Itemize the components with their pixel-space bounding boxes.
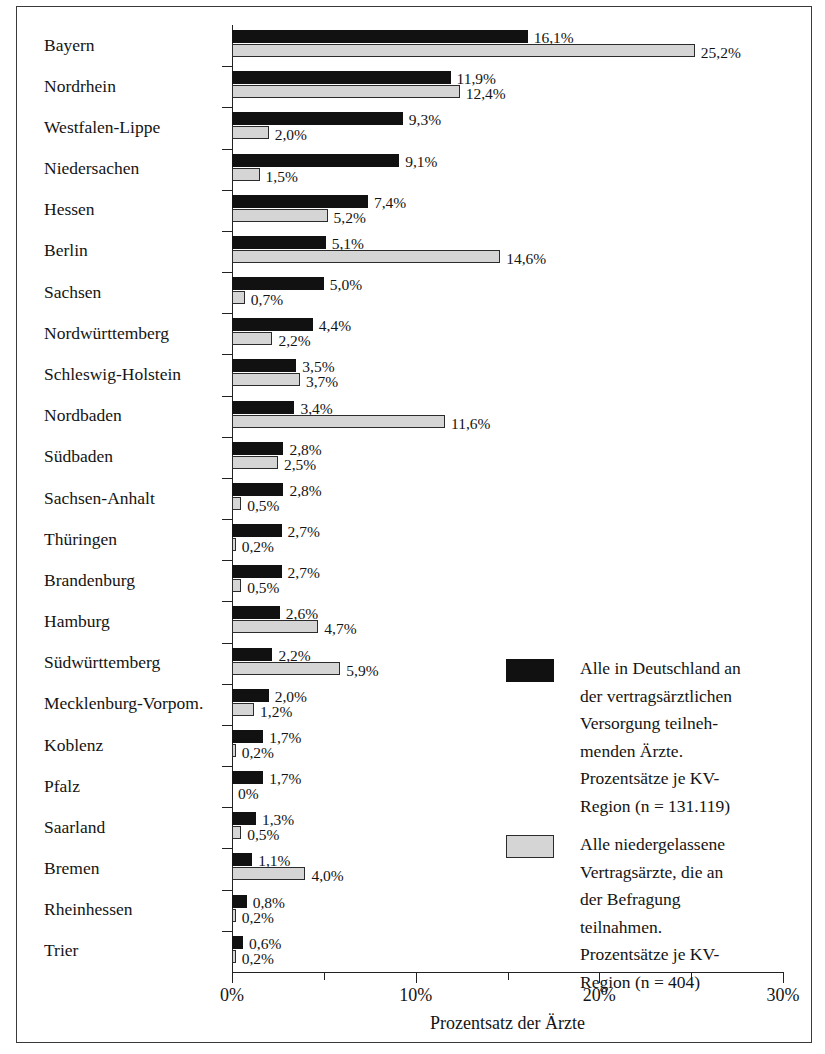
bar-series-survey-physicians xyxy=(232,250,500,263)
bar-series-survey-physicians xyxy=(232,456,278,469)
y-axis-tick xyxy=(222,560,232,561)
x-axis-tick-major xyxy=(232,972,233,983)
bar-value-label: 9,1% xyxy=(405,154,437,170)
y-axis-tick xyxy=(222,725,232,726)
bar-value-label: 0,5% xyxy=(247,498,279,514)
y-axis-tick xyxy=(222,890,232,891)
bar-series-all-physicians xyxy=(232,565,282,578)
category-label: Brandenburg xyxy=(44,572,135,590)
bar-series-all-physicians xyxy=(232,318,313,331)
bar-series-all-physicians xyxy=(232,71,451,84)
category-label: Südwürttemberg xyxy=(44,654,160,672)
bar-series-all-physicians xyxy=(232,359,296,372)
bar-series-all-physicians xyxy=(232,771,263,784)
bar-value-label: 9,3% xyxy=(409,112,441,128)
bar-series-all-physicians xyxy=(232,195,368,208)
bar-series-survey-physicians xyxy=(232,538,236,551)
y-axis-tick xyxy=(222,519,232,520)
category-label: Rheinhessen xyxy=(44,901,132,919)
bar-series-all-physicians xyxy=(232,936,243,949)
y-axis-tick xyxy=(222,396,232,397)
bar-series-all-physicians xyxy=(232,853,252,866)
bar-series-survey-physicians xyxy=(232,867,305,880)
bar-value-label: 2,7% xyxy=(288,524,320,540)
y-axis-tick xyxy=(222,231,232,232)
bar-value-label: 0,5% xyxy=(247,827,279,843)
bar-value-label: 14,6% xyxy=(506,251,546,267)
legend-text-line: Vertragsärzte, die an xyxy=(580,859,723,887)
x-axis-tick-label: 30% xyxy=(767,986,800,1004)
bar-value-label: 0,2% xyxy=(242,951,274,967)
y-axis-tick xyxy=(222,766,232,767)
bar-value-label: 2,8% xyxy=(289,442,321,458)
bar-series-survey-physicians xyxy=(232,703,254,716)
y-axis-tick xyxy=(222,313,232,314)
bar-series-all-physicians xyxy=(232,689,269,702)
bar-series-all-physicians xyxy=(232,483,283,496)
x-axis-tick-minor xyxy=(508,972,509,980)
bar-series-survey-physicians xyxy=(232,909,236,922)
legend-text-line: Versorgung teilneh- xyxy=(580,710,718,738)
x-axis-tick-label: 0% xyxy=(220,986,244,1004)
category-label: Südbaden xyxy=(44,448,113,466)
bar-series-all-physicians xyxy=(232,648,272,661)
bar-series-survey-physicians xyxy=(232,168,260,181)
y-axis-tick xyxy=(222,437,232,438)
category-label: Mecklenburg-Vorpom. xyxy=(44,695,203,713)
y-axis-tick xyxy=(222,931,232,932)
bar-value-label: 2,8% xyxy=(289,483,321,499)
bar-series-survey-physicians xyxy=(232,85,460,98)
legend-text-line: teilnahmen. xyxy=(580,914,662,942)
bar-value-label: 4,7% xyxy=(324,621,356,637)
bar-series-survey-physicians xyxy=(232,950,236,963)
category-label: Saarland xyxy=(44,819,105,837)
category-label: Berlin xyxy=(44,242,88,260)
bar-value-label: 3,7% xyxy=(306,374,338,390)
bar-value-label: 4,4% xyxy=(319,318,351,334)
bar-series-survey-physicians xyxy=(232,373,300,386)
category-label: Schleswig-Holstein xyxy=(44,366,181,384)
bar-value-label: 0,2% xyxy=(242,745,274,761)
bar-value-label: 0,8% xyxy=(253,895,285,911)
bar-value-label: 1,2% xyxy=(260,704,292,720)
category-label: Koblenz xyxy=(44,737,103,755)
category-label: Hamburg xyxy=(44,613,110,631)
x-axis-tick-label: 10% xyxy=(399,986,432,1004)
category-label: Sachsen-Anhalt xyxy=(44,490,155,508)
category-label: Bayern xyxy=(44,37,95,55)
legend-text-line: Region (n = 404) xyxy=(580,969,700,997)
bar-value-label: 0,7% xyxy=(251,292,283,308)
bar-series-survey-physicians xyxy=(232,579,241,592)
category-label: Pfalz xyxy=(44,778,80,796)
category-label: Hessen xyxy=(44,201,95,219)
bar-value-label: 2,7% xyxy=(288,565,320,581)
legend-text-line: Alle niedergelassene xyxy=(580,831,725,859)
bar-value-label: 2,0% xyxy=(275,127,307,143)
category-label: Thüringen xyxy=(44,531,117,549)
y-axis-tick xyxy=(222,643,232,644)
bar-series-survey-physicians xyxy=(232,620,318,633)
bar-value-label: 5,0% xyxy=(330,277,362,293)
bar-value-label: 25,2% xyxy=(701,45,741,61)
legend-swatch-all-physicians xyxy=(506,659,554,682)
y-axis-tick xyxy=(222,190,232,191)
category-label: Trier xyxy=(44,942,78,960)
bar-series-all-physicians xyxy=(232,236,326,249)
y-axis-tick xyxy=(222,107,232,108)
bar-series-all-physicians xyxy=(232,154,399,167)
legend-text-line: Region (n = 131.119) xyxy=(580,793,730,821)
bar-value-label: 0,2% xyxy=(242,910,274,926)
bar-series-all-physicians xyxy=(232,524,282,537)
x-axis-tick-major xyxy=(416,972,417,983)
x-axis-title: Prozentsatz der Ärzte xyxy=(232,1013,783,1034)
category-label: Niedersachen xyxy=(44,160,139,178)
bar-series-all-physicians xyxy=(232,112,403,125)
bar-value-label: 5,9% xyxy=(346,663,378,679)
bar-series-all-physicians xyxy=(232,442,283,455)
bar-value-label: 0% xyxy=(238,786,259,802)
y-axis-tick xyxy=(222,601,232,602)
bar-series-survey-physicians xyxy=(232,744,236,757)
bar-value-label: 1,7% xyxy=(269,771,301,787)
y-axis-tick xyxy=(222,66,232,67)
category-label: Westfalen-Lippe xyxy=(44,119,160,137)
